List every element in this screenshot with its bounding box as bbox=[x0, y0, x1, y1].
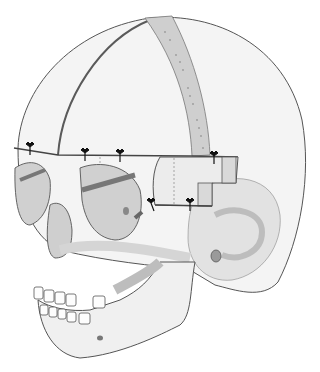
bandeau-step-face bbox=[198, 183, 212, 206]
skull-illustration bbox=[0, 0, 320, 372]
external-auditory-meatus bbox=[211, 250, 221, 262]
bandeau-end-face bbox=[222, 157, 236, 183]
